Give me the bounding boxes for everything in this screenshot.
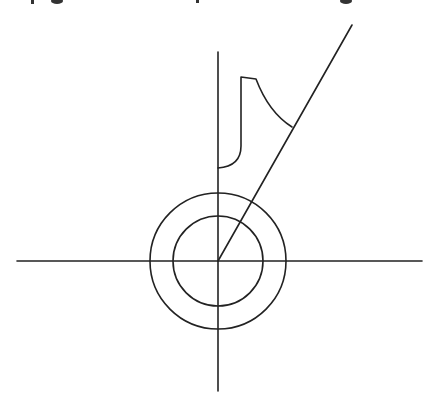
radial-line [218, 25, 352, 261]
outline-shape [218, 77, 292, 168]
diagram-canvas [0, 0, 431, 399]
cropped-caption [31, 0, 352, 4]
